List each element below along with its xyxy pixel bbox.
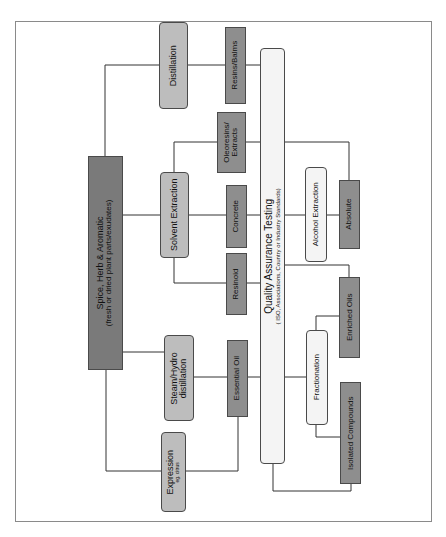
node-concrete: Concrete xyxy=(226,185,247,248)
distillation-label: Distillation xyxy=(168,45,178,86)
root-subtitle: (fresh or dried plant parts/exudates) xyxy=(106,200,114,327)
node-enriched-oils: Enriched Oils xyxy=(339,277,360,358)
solvent-extraction-label: Solvent Extraction xyxy=(169,179,179,252)
node-expression: Expression eg. citrus xyxy=(161,432,186,512)
node-resins-balms: Resins/Balms xyxy=(225,27,246,104)
steam-hydro-label-2: distillation xyxy=(179,352,188,405)
root-node-spice-herb-aromatic: Spice, Herb & Aromatic (fresh or dried p… xyxy=(88,156,123,370)
alcohol-extraction-label: Alcohol Extraction xyxy=(311,182,320,246)
node-isolated-compounds: Isolated Compounds xyxy=(340,382,361,484)
node-distillation: Distillation xyxy=(159,22,188,109)
expression-note: eg. citrus xyxy=(176,450,181,495)
node-solvent-extraction: Solvent Extraction xyxy=(160,172,189,258)
node-fractionation: Fractionation xyxy=(306,330,328,425)
qa-subtitle: ( ISO, Associations, Country or Industry… xyxy=(275,188,281,324)
node-oleoresins-extracts: Oleoresins/ Extracts xyxy=(217,112,246,173)
node-quality-assurance-testing: Quality Assurance Testing ( ISO, Associa… xyxy=(260,48,285,464)
qa-title: Quality Assurance Testing xyxy=(264,188,275,324)
essential-oil-label: Essential Oil xyxy=(232,356,241,400)
node-essential-oil: Essential Oil xyxy=(227,340,248,417)
node-resinoid: Resinoid xyxy=(226,253,247,315)
fractionation-label: Fractionation xyxy=(312,354,321,400)
node-alcohol-extraction: Alcohol Extraction xyxy=(305,167,327,262)
node-absolute: Absolute xyxy=(339,180,360,249)
resins-balms-label: Resins/Balms xyxy=(230,41,239,90)
node-steam-hydro-distillation: Steam/Hydro distillation xyxy=(164,335,194,421)
concrete-label: Concrete xyxy=(231,200,240,232)
absolute-label: Absolute xyxy=(344,199,353,230)
connector-lines xyxy=(0,0,446,537)
enriched-oils-label: Enriched Oils xyxy=(344,294,353,342)
oleoresins-label-2: Extracts xyxy=(232,122,240,162)
resinoid-label: Resinoid xyxy=(231,268,240,299)
isolated-compounds-label: Isolated Compounds xyxy=(345,396,354,469)
